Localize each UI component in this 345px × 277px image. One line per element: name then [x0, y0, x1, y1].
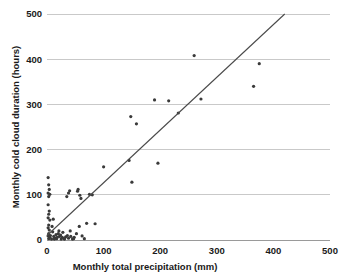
- data-point: [94, 222, 97, 225]
- data-point: [48, 209, 51, 212]
- data-point: [69, 229, 72, 232]
- y-axis-title: Monthly cold cloud duration (hours): [10, 46, 21, 209]
- data-point: [63, 238, 66, 241]
- data-point: [72, 237, 75, 240]
- data-point: [47, 203, 50, 206]
- data-point: [79, 197, 82, 200]
- data-point: [69, 235, 72, 238]
- data-point: [50, 225, 53, 228]
- data-point: [57, 229, 60, 232]
- y-tick-label: 0: [37, 234, 42, 245]
- data-point: [65, 195, 68, 198]
- data-point: [129, 115, 132, 118]
- data-point: [47, 176, 50, 179]
- data-point: [153, 98, 156, 101]
- x-tick-label: 100: [96, 245, 112, 256]
- data-point: [67, 191, 70, 194]
- x-tick-label: 300: [209, 245, 225, 256]
- data-point: [193, 54, 196, 57]
- data-point: [83, 237, 86, 240]
- data-point: [102, 165, 105, 168]
- x-tick-label: 500: [322, 245, 338, 256]
- chart-page: 0100200300400500 0100200300400500 Monthl…: [0, 0, 345, 277]
- data-point: [78, 225, 81, 228]
- data-points-group: [47, 54, 261, 241]
- data-point: [52, 218, 55, 221]
- x-tick-label: 400: [265, 245, 281, 256]
- data-point: [167, 99, 170, 102]
- x-tick-label: 0: [44, 245, 49, 256]
- data-point: [252, 85, 255, 88]
- data-point: [47, 183, 50, 186]
- data-point: [48, 219, 51, 222]
- data-point: [48, 188, 51, 191]
- data-point: [135, 122, 138, 125]
- data-point: [47, 195, 50, 198]
- data-point: [85, 222, 88, 225]
- data-point: [156, 162, 159, 165]
- data-point: [258, 62, 261, 65]
- y-tick-label: 500: [26, 8, 42, 19]
- data-point: [199, 97, 202, 100]
- y-tick-label: 300: [26, 99, 42, 110]
- trendline: [47, 14, 285, 235]
- data-point: [49, 234, 52, 237]
- data-point: [47, 223, 50, 226]
- trendline-group: [47, 14, 285, 235]
- data-point: [130, 181, 133, 184]
- y-tick-labels-group: 0100200300400500: [26, 8, 42, 245]
- data-point: [75, 232, 78, 235]
- data-point: [50, 238, 53, 241]
- data-point: [47, 237, 50, 240]
- data-point: [78, 194, 81, 197]
- data-point: [61, 231, 64, 234]
- data-point: [55, 237, 58, 240]
- data-point: [80, 234, 83, 237]
- x-axis-title: Monthly total precipitation (mm): [73, 261, 218, 272]
- scatter-chart: 0100200300400500 0100200300400500 Monthl…: [0, 0, 345, 277]
- y-tick-label: 200: [26, 144, 42, 155]
- x-tick-label: 200: [152, 245, 168, 256]
- gridlines-group: [47, 14, 330, 195]
- data-point: [76, 190, 79, 193]
- y-tick-label: 100: [26, 189, 42, 200]
- y-tick-label: 400: [26, 54, 42, 65]
- data-point: [59, 233, 62, 236]
- x-tick-labels-group: 0100200300400500: [44, 245, 338, 256]
- data-point: [47, 213, 50, 216]
- data-point: [48, 228, 51, 231]
